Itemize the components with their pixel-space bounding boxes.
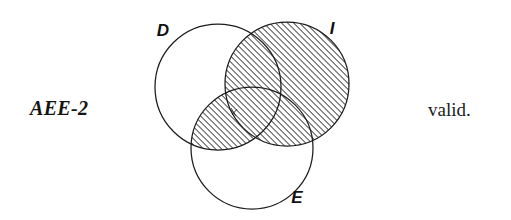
set-label-i: I <box>330 19 336 38</box>
validity-label: valid. <box>428 100 471 119</box>
set-label-e: E <box>291 188 303 207</box>
syllogism-code-label: AEE-2 <box>30 98 88 118</box>
venn-figure: D I E AEE-2 valid. <box>0 0 511 220</box>
set-label-d: D <box>157 21 169 40</box>
